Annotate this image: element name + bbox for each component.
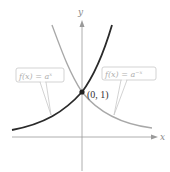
intercept-label: (0, 1) bbox=[87, 89, 109, 101]
exponential-diagram: x y (0, 1) f(x) = ax f(x) = a−x bbox=[0, 0, 170, 172]
x-axis-arrow-icon bbox=[151, 135, 158, 140]
y-axis-label: y bbox=[77, 7, 84, 17]
callout-pointer bbox=[40, 82, 51, 115]
intercept-point bbox=[79, 89, 84, 94]
x-axis-label: x bbox=[160, 132, 165, 142]
callout-a-neg-x: f(x) = a−x bbox=[102, 67, 156, 115]
callout-label-a-x: f(x) = ax bbox=[18, 71, 52, 81]
callout-a-x: f(x) = ax bbox=[16, 68, 64, 115]
y-axis-arrow-icon bbox=[80, 20, 85, 27]
callout-pointer bbox=[114, 80, 127, 115]
